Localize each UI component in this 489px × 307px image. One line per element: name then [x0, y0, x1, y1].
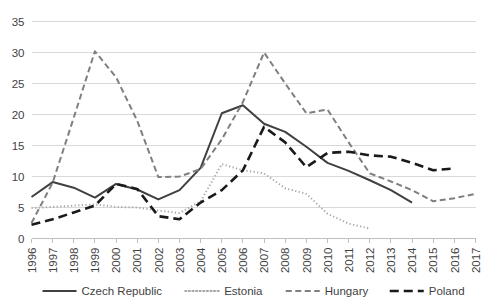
series-line-czech-republic [32, 105, 413, 202]
legend-label-hungary: Hungary [325, 285, 369, 297]
x-tick-label: 2013 [385, 248, 397, 274]
x-tick-label: 2001 [131, 248, 143, 274]
x-tick-label: 2009 [301, 248, 313, 274]
x-tick-label: 2007 [258, 248, 270, 274]
x-tick-label: 2004 [195, 247, 207, 273]
x-tick-label: 2008 [279, 248, 291, 274]
y-tick-label: 35 [12, 16, 25, 28]
data-series [32, 51, 476, 228]
y-tick-label: 25 [12, 78, 25, 90]
x-tick-label: 2016 [449, 248, 461, 274]
x-tick-label: 1996 [26, 248, 38, 274]
series-line-poland [32, 127, 455, 225]
legend-label-estonia: Estonia [224, 285, 263, 297]
gridlines [32, 22, 476, 239]
x-tick-label: 2010 [322, 248, 334, 274]
x-tick-label: 2006 [237, 248, 249, 274]
legend-label-poland: Poland [429, 285, 465, 297]
y-tick-label: 15 [12, 140, 25, 152]
y-tick-label: 10 [12, 171, 25, 183]
axes [32, 239, 476, 244]
x-tick-label: 2002 [153, 248, 165, 274]
x-tick-label: 2005 [216, 248, 228, 274]
y-tick-label: 20 [12, 109, 25, 121]
x-tick-label: 2014 [406, 247, 418, 273]
x-tick-label: 2012 [364, 248, 376, 274]
series-line-hungary [32, 51, 476, 223]
x-tick-label: 2015 [427, 248, 439, 274]
series-line-estonia [32, 164, 370, 228]
x-tick-label: 1999 [89, 248, 101, 274]
x-tick-label: 1998 [68, 248, 80, 274]
x-tick-label: 2011 [343, 248, 355, 273]
legend-label-czech-republic: Czech Republic [82, 285, 163, 297]
y-tick-label: 0 [18, 233, 24, 245]
y-axis-tick-labels: 05101520253035 [12, 16, 25, 245]
line-chart: 05101520253035 1996199719981999200020012… [0, 0, 489, 307]
chart-canvas: 05101520253035 1996199719981999200020012… [0, 0, 489, 307]
x-tick-label: 2000 [110, 248, 122, 274]
x-tick-label: 1997 [47, 248, 59, 274]
y-tick-label: 30 [12, 47, 25, 59]
x-tick-label: 2003 [174, 248, 186, 274]
x-tick-label: 2017 [470, 248, 482, 274]
chart-legend: Czech RepublicEstoniaHungaryPoland [43, 285, 465, 297]
y-tick-label: 5 [18, 202, 24, 214]
x-axis-tick-labels: 1996199719981999200020012002200320042005… [26, 247, 482, 273]
